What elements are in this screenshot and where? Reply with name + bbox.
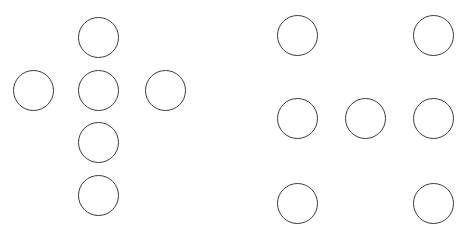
circle-group-right (0, 0, 461, 239)
figure-canvas (0, 0, 461, 239)
top-left-circle[interactable] (277, 15, 318, 56)
right-arm-circle[interactable] (145, 70, 186, 111)
middle-center-circle[interactable] (345, 98, 386, 139)
bottom-circle[interactable] (78, 175, 119, 216)
top-circle[interactable] (78, 17, 119, 58)
bottom-left-circle[interactable] (277, 183, 318, 224)
top-right-circle[interactable] (413, 15, 454, 56)
bottom-right-circle[interactable] (413, 183, 454, 224)
circle-group-left (0, 0, 461, 239)
center-circle[interactable] (78, 70, 119, 111)
middle-right-circle[interactable] (413, 98, 454, 139)
middle-left-circle[interactable] (277, 98, 318, 139)
left-arm-circle[interactable] (13, 70, 54, 111)
lower-middle-circle[interactable] (78, 122, 119, 163)
